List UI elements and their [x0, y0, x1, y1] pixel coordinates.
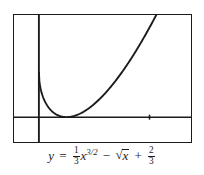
figure-panel: y = 1 3 x3/2 − √ x + 2 3 [0, 0, 204, 175]
caption-x-radicand: x [122, 148, 128, 163]
equation-caption: y = 1 3 x3/2 − √ x + 2 3 [0, 146, 204, 166]
caption-minus: − [101, 148, 112, 163]
radical-bar [122, 149, 129, 150]
fraction-numerator: 1 [73, 146, 80, 156]
fraction-two-thirds: 2 3 [148, 146, 155, 166]
function-curve [39, 15, 183, 117]
square-root-group: √ x [115, 149, 129, 162]
radical-sign-icon: √ [115, 148, 122, 161]
plot-canvas [14, 15, 191, 142]
fraction-denominator: 3 [148, 156, 155, 167]
caption-y: y [48, 148, 54, 163]
fraction-one-third: 1 3 [73, 146, 80, 166]
plot-frame [13, 14, 192, 143]
caption-equals: = [57, 148, 68, 163]
fraction-denominator: 3 [73, 156, 80, 167]
caption-exponent: 3/2 [86, 147, 97, 157]
fraction-numerator: 2 [148, 146, 155, 156]
caption-plus: + [132, 148, 143, 163]
